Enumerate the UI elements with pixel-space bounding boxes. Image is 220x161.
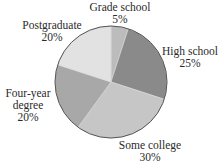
label-four-year-line1: Four-year [5,87,50,99]
label-some-college-pct: 30% [119,151,181,161]
label-high-school-pct: 25% [162,57,218,69]
label-grade-school-name: Grade school [90,1,151,13]
label-grade-school: Grade school 5% [90,1,151,25]
label-postgraduate-name: Postgraduate [22,19,81,31]
label-high-school-name: High school [162,45,218,57]
label-four-year-pct: 20% [5,111,50,123]
label-some-college: Some college 30% [119,139,181,161]
label-grade-school-pct: 5% [90,13,151,25]
label-high-school: High school 25% [162,45,218,69]
label-four-year-line2: degree [5,99,50,111]
label-postgraduate: Postgraduate 20% [22,19,81,43]
label-some-college-name: Some college [119,139,181,151]
label-four-year-degree: Four-year degree 20% [5,87,50,123]
label-postgraduate-pct: 20% [22,31,81,43]
